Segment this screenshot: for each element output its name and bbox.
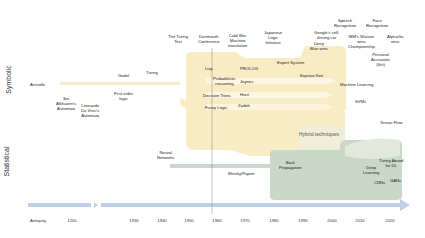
timeline-arrow-segment-1 bbox=[28, 203, 91, 207]
item-probabilistic: Probabilistic reasoning bbox=[213, 76, 236, 86]
item-turing-award: Turing Award for DL bbox=[379, 158, 403, 168]
event-speech: Speech Recognition bbox=[334, 18, 356, 28]
hybrid-label: Hybrid techniques bbox=[299, 132, 339, 137]
event-alphago: AlphaGo wins bbox=[387, 34, 403, 44]
event-face: Face Recognition bbox=[366, 18, 388, 28]
item-ibn: Ibn Alkhazen's Automata bbox=[56, 96, 76, 111]
section-symbolic: Symbolic bbox=[5, 65, 12, 93]
symbolic-thin-band bbox=[60, 82, 180, 85]
event-japanese: Japanese Logic Initiative bbox=[264, 30, 282, 45]
item-ml: Machine Learning bbox=[340, 82, 373, 87]
timeline-arrowhead bbox=[400, 199, 410, 211]
item-decision-trees: Decision Trees bbox=[203, 93, 231, 98]
tick-1950: 1950 bbox=[184, 218, 193, 223]
tick-2000: 2000 bbox=[327, 218, 336, 223]
tick-1980: 1980 bbox=[269, 218, 278, 223]
event-deep-blue: Deep Blue wins bbox=[310, 41, 328, 51]
tick-1940: 1940 bbox=[157, 218, 166, 223]
statistical-thin-band bbox=[170, 164, 270, 168]
item-turing: Turing bbox=[146, 70, 158, 75]
item-cnns: CNNs bbox=[374, 180, 385, 185]
event-dartmouth: Dartmouth Conference bbox=[198, 34, 220, 44]
tick-2020: 2020 bbox=[385, 218, 394, 223]
item-leonardo: Leonardo Da Vinci's Automata bbox=[81, 103, 99, 118]
item-prolog: PROLOG bbox=[240, 66, 258, 71]
item-minsky: Minsky/Papert bbox=[228, 171, 255, 176]
item-bayes: Bayesian Nets bbox=[300, 74, 323, 79]
section-statistical: Statistical bbox=[3, 147, 10, 177]
item-godel: Godel bbox=[118, 73, 129, 78]
tick-1200: 1200 bbox=[67, 218, 76, 223]
tick-1990: 1990 bbox=[298, 218, 307, 223]
tick-1960: 1960 bbox=[212, 218, 221, 223]
item-aristotle: Aristotle bbox=[30, 82, 45, 87]
event-google-car: Google's self- driving car bbox=[314, 30, 339, 40]
item-expert: Expert System bbox=[277, 60, 304, 65]
item-backprop: Back Propagation bbox=[279, 160, 302, 170]
item-hunt: Hunt bbox=[240, 92, 249, 97]
item-fuzzy: Fuzzy Logic bbox=[205, 105, 227, 110]
timeline-arrow-segment-2 bbox=[101, 203, 401, 207]
item-tensorflow: Tensor Flow bbox=[380, 120, 403, 125]
item-svms: SVMs bbox=[355, 99, 366, 104]
item-jaynes: Jaynes bbox=[240, 79, 253, 84]
item-first-order: First order logic bbox=[114, 91, 133, 101]
event-assistants: Personal Assistants (Siri) bbox=[371, 52, 390, 67]
event-watson: IBM's Watson wins Championship bbox=[348, 34, 375, 49]
tick-1930: 1930 bbox=[129, 218, 138, 223]
statistical-band-main bbox=[270, 146, 345, 200]
tick-antiquity: Antiquity bbox=[30, 218, 46, 223]
item-gans: GANs bbox=[390, 178, 401, 183]
hybrid-region bbox=[300, 125, 345, 153]
event-turing-test: The Turing Test bbox=[168, 34, 188, 44]
item-zadeh: Zadeh bbox=[238, 103, 250, 108]
item-neural-networks: Neural Networks bbox=[157, 150, 174, 160]
event-cold-war: Cold War Machine translation bbox=[228, 33, 247, 48]
item-deep-learning: Deep Learning bbox=[363, 165, 379, 175]
tick-1970: 1970 bbox=[240, 218, 249, 223]
item-lisp: Lisp bbox=[205, 66, 213, 71]
tick-2010: 2010 bbox=[355, 218, 364, 223]
